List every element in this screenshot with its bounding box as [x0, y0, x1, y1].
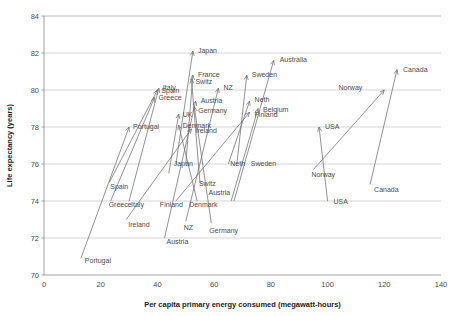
y-tick-label-78: 78: [31, 123, 39, 132]
x-tick-label-20: 20: [97, 280, 105, 289]
tail-label-neth: Neth: [230, 160, 245, 167]
tail-label-japan: Japan: [174, 160, 193, 168]
tail-label-greece: Greece: [109, 201, 132, 208]
arrow-shaft: [231, 109, 258, 202]
arrow-shaft: [228, 101, 249, 164]
head-label-neth: Neth: [255, 96, 270, 103]
x-tick-label-0: 0: [42, 280, 46, 289]
tail-label-spain: Spain: [110, 183, 128, 191]
head-label-nz: NZ: [223, 84, 233, 91]
head-label-usa: USA: [325, 123, 340, 130]
tail-label-portugal: Portugal: [85, 257, 112, 265]
tail-label-norway: Norway: [311, 171, 335, 179]
y-tick-label-74: 74: [31, 197, 39, 206]
tail-label-italy: Italy: [131, 201, 144, 209]
arrow-belgium: [231, 109, 259, 202]
tail-label-usa: USA: [334, 198, 349, 205]
arrow-shaft: [237, 75, 247, 164]
head-label-portugal: Portugal: [133, 123, 160, 131]
tail-label-austria: Austria: [167, 238, 189, 245]
arrow-australia: [234, 60, 274, 201]
tail-label-sweden: Sweden: [251, 160, 276, 167]
head-label-france: France: [198, 71, 220, 78]
tail-label-finland: Finland: [160, 201, 183, 208]
head-label-belgium: Belgium: [263, 106, 288, 114]
tail-label-switz: Switz: [199, 180, 216, 187]
tail-label-nz: NZ: [184, 224, 194, 231]
scatter-chart: PortugalPortugalSpainSpainGreeceGreeceIt…: [0, 0, 457, 316]
gridlines-group: [44, 16, 441, 238]
x-tick-label-60: 60: [210, 280, 218, 289]
head-label-switz: Switz: [195, 78, 212, 85]
head-label-sweden: Sweden: [252, 71, 277, 78]
axes-group: [44, 16, 441, 275]
y-tick-label-72: 72: [31, 234, 39, 243]
head-label-norway: Norway: [339, 84, 363, 92]
tail-label-germany: Germany: [209, 227, 238, 235]
head-label-denmark: Denmark: [183, 122, 212, 129]
x-tick-label-100: 100: [321, 280, 334, 289]
arrow-shaft: [313, 90, 384, 170]
arrow-norway: [313, 90, 384, 170]
tail-label-denmark: Denmark: [189, 201, 218, 208]
arrow-sweden: [237, 75, 248, 164]
head-label-italy: Italy: [163, 84, 176, 92]
x-tick-label-40: 40: [153, 280, 161, 289]
y-axis-title: Life expectancy (years): [5, 104, 14, 187]
tail-label-canada: Canada: [374, 186, 399, 193]
x-axis-title: Per capita primary energy consumed (mega…: [144, 300, 341, 309]
head-label-uk: UK: [183, 111, 193, 118]
x-tick-label-120: 120: [378, 280, 391, 289]
arrow-shaft: [81, 127, 129, 258]
arrow-spain: [109, 90, 157, 183]
tail-label-austria2: Austria: [208, 189, 230, 196]
head-label-japan: Japan: [198, 47, 217, 55]
y-tick-label-76: 76: [31, 160, 39, 169]
arrow-portugal: [81, 127, 130, 258]
y-tick-label-70: 70: [31, 271, 39, 280]
head-label-canada: Canada: [403, 66, 428, 73]
arrow-italy: [129, 88, 160, 201]
point-labels-group: PortugalPortugalSpainSpainGreeceGreeceIt…: [85, 47, 428, 265]
arrow-shaft: [109, 90, 157, 183]
head-label-australia: Australia: [280, 56, 307, 63]
head-label-germany: Germany: [198, 107, 227, 115]
y-tick-label-84: 84: [31, 12, 39, 21]
arrow-shaft: [129, 88, 159, 201]
y-tick-label-82: 82: [31, 49, 39, 58]
chart-container: PortugalPortugalSpainSpainGreeceGreeceIt…: [0, 0, 457, 316]
x-tick-label-140: 140: [435, 280, 448, 289]
head-label-austria: Austria: [201, 97, 223, 104]
y-tick-label-80: 80: [31, 86, 39, 95]
x-tick-label-80: 80: [267, 280, 275, 289]
head-label-greece: Greece: [159, 94, 182, 101]
tail-label-ireland: Ireland: [128, 221, 150, 228]
